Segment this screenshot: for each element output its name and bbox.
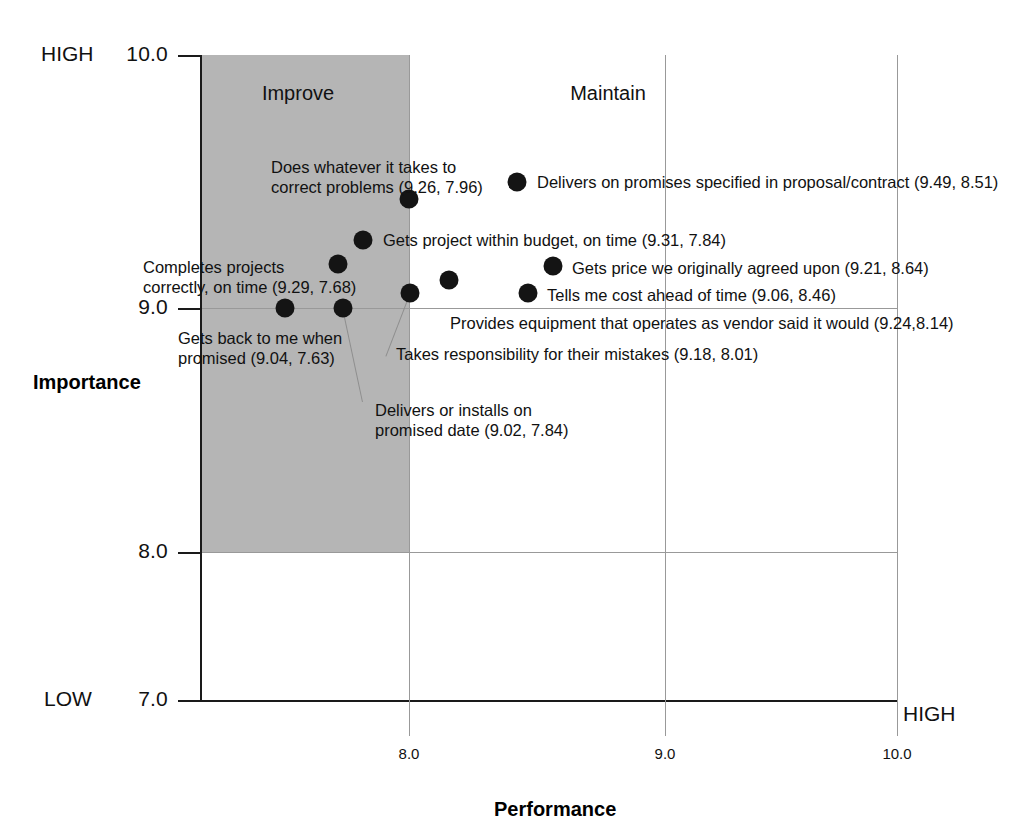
x-tick-label-8: 8.0 — [399, 745, 420, 762]
improve-quadrant-shading — [200, 55, 409, 552]
annotation-takes-responsibility: Takes responsibility for their mistakes … — [396, 344, 758, 364]
annotation-completes-projects-line2: correctly, on time (9.29, 7.68) — [143, 277, 356, 297]
annotation-does-whatever-it-takes-line2: correct problems (9.26, 7.96) — [271, 177, 483, 197]
y-axis-high-label: HIGH — [41, 42, 94, 66]
point-completes-projects-correctly — [329, 255, 348, 274]
y-axis-low-label: LOW — [44, 687, 92, 711]
x-tick-label-10: 10.0 — [882, 745, 911, 762]
quadrant-label-improve: Improve — [262, 82, 334, 105]
point-delivers-or-installs — [334, 299, 353, 318]
point-gets-price-originally-agreed — [544, 257, 563, 276]
annotation-delivers-installs-line2: promised date (9.02, 7.84) — [375, 420, 569, 440]
x-tick-label-9: 9.0 — [655, 745, 676, 762]
annotation-completes-projects-line1: Completes projects — [143, 257, 284, 277]
gridline-y-9 — [200, 308, 897, 309]
y-tick-7 — [178, 700, 200, 702]
x-tick-9 — [665, 700, 666, 736]
point-gets-back-to-me — [276, 299, 295, 318]
x-axis-line — [200, 700, 897, 702]
annotation-delivers-installs-line1: Delivers or installs on — [375, 400, 532, 420]
point-tells-me-cost-ahead — [519, 284, 538, 303]
annotation-gets-project-within-budget: Gets project within budget, on time (9.3… — [383, 230, 726, 250]
quadrant-label-maintain: Maintain — [570, 82, 646, 105]
y-tick-label-9: 9.0 — [58, 295, 168, 319]
point-takes-responsibility — [401, 284, 420, 303]
annotation-delivers-on-promises: Delivers on promises specified in propos… — [537, 172, 998, 192]
quadrant-chart: 10.0 9.0 8.0 7.0 HIGH LOW Importance 8.0… — [0, 0, 1011, 833]
gridline-x-9 — [665, 55, 666, 736]
gridline-x-10 — [897, 55, 898, 736]
y-tick-8 — [178, 552, 200, 554]
point-provides-equipment — [440, 271, 459, 290]
annotation-tells-me-cost: Tells me cost ahead of time (9.06, 8.46) — [547, 285, 836, 305]
x-axis-high-label: HIGH — [903, 702, 956, 726]
annotation-does-whatever-it-takes-line1: Does whatever it takes to — [271, 157, 456, 177]
annotation-gets-back-to-me-line2: promised (9.04, 7.63) — [178, 348, 335, 368]
gridline-y-8 — [200, 552, 897, 553]
x-axis-title: Performance — [494, 798, 616, 821]
y-tick-10 — [178, 55, 200, 57]
y-axis-title: Importance — [33, 371, 141, 394]
x-tick-10 — [897, 700, 898, 736]
y-axis-line — [200, 55, 202, 702]
point-gets-project-within-budget — [354, 231, 373, 250]
annotation-provides-equipment: Provides equipment that operates as vend… — [450, 313, 954, 333]
y-tick-9 — [178, 308, 200, 310]
x-tick-8 — [409, 700, 410, 736]
point-delivers-on-promises — [508, 173, 527, 192]
y-tick-label-8: 8.0 — [58, 539, 168, 563]
annotation-gets-price: Gets price we originally agreed upon (9.… — [572, 258, 929, 278]
annotation-gets-back-to-me-line1: Gets back to me when — [178, 328, 342, 348]
